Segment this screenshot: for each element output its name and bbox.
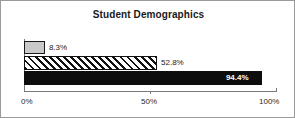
x-tick-label-1: 50% [141,97,157,106]
bar-row: 52.8% [24,56,276,70]
plot-area: 8.3% 52.8% 94.4% [24,41,276,91]
bar-series-2 [24,56,157,70]
x-tick-label-2: 100% [259,97,279,106]
x-tick-0 [24,88,25,92]
chart-title: Student Demographics [1,9,295,20]
bar-row: 94.4% [24,71,276,85]
bar-value-label-3: 94.4% [226,71,249,85]
x-tick-1 [150,91,151,94]
chart-container: Student Demographics 8.3% 52.8% 94.4% 0%… [0,0,295,118]
x-tick-label-0: 0% [21,97,33,106]
x-tick-2 [276,88,277,92]
bar-value-label-2: 52.8% [157,56,184,70]
bar-series-1 [24,41,45,54]
bar-row: 8.3% [24,41,276,55]
bar-value-label-1: 8.3% [45,41,67,55]
